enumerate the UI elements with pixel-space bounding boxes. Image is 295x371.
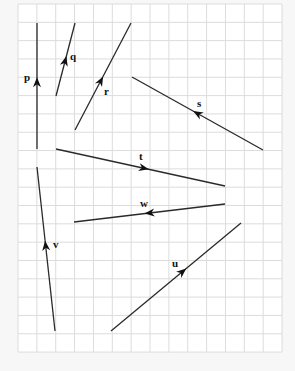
vector-label: v	[53, 238, 59, 250]
vector-label: u	[172, 257, 178, 269]
vector-label: r	[104, 85, 109, 97]
vector-label: q	[70, 50, 77, 62]
vector-label: s	[197, 97, 202, 109]
vector-grid-diagram: pqrstwvu	[0, 0, 295, 371]
vector-label: t	[139, 150, 143, 162]
vector-label: w	[140, 197, 148, 209]
vector-label: p	[24, 71, 30, 83]
